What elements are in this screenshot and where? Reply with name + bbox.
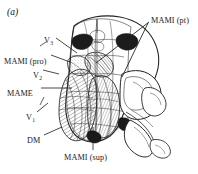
label-v3: V3 <box>44 37 53 45</box>
label-mame-text: MAME <box>7 89 33 98</box>
label-v2-subscript: 2 <box>39 75 42 81</box>
label-mami-sup-text: MAMI (sup) <box>64 153 107 162</box>
label-mami-pro-text: MAMI (pro) <box>4 57 47 66</box>
label-dm-text: DM <box>27 136 40 145</box>
label-v3-subscript: 3 <box>50 40 53 46</box>
panel-label: (a) <box>7 7 18 17</box>
mami-superficialis-muscle <box>88 76 120 138</box>
skull-illustration <box>0 0 198 174</box>
label-v1: V1 <box>26 114 35 122</box>
rostrum-and-snout <box>124 120 170 158</box>
figure-panel: (a) MAMI (pt) V3 MAMI (pro) V2 MAME V1 D… <box>0 0 198 174</box>
label-mami-pro: MAMI (pro) <box>4 58 47 66</box>
label-mami-pt: MAMI (pt) <box>151 17 189 25</box>
label-mami-pt-text: MAMI (pt) <box>151 16 189 25</box>
label-mame: MAME <box>7 90 33 98</box>
label-mami-sup: MAMI (sup) <box>64 154 107 162</box>
label-v2: V2 <box>33 72 42 80</box>
label-v1-subscript: 1 <box>32 117 35 123</box>
label-dm: DM <box>27 137 40 145</box>
